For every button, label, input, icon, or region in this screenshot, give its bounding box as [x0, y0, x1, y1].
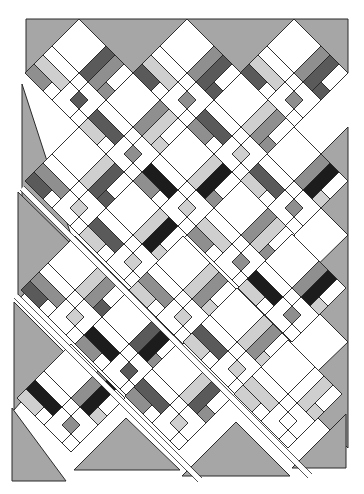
quilt-canvas — [0, 0, 364, 494]
